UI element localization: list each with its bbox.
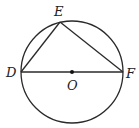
circle-diagram: E D F O (0, 0, 139, 128)
label-d: D (5, 65, 17, 80)
label-f: F (125, 66, 136, 81)
segment-ef (60, 22, 123, 72)
label-e: E (53, 4, 64, 19)
label-o: O (67, 78, 78, 93)
center-point-o (70, 70, 74, 74)
